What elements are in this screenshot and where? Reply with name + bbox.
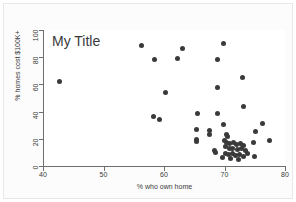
y-tick-mark: [39, 84, 43, 85]
x-axis-title: % who own home: [43, 183, 286, 190]
y-tick-label: 80: [32, 57, 39, 83]
x-tick-label: 60: [151, 171, 177, 178]
y-tick-label: 60: [32, 84, 39, 110]
chart-canvas: 020406080100 4050607080 My Title % homes…: [0, 0, 296, 202]
plot-area: [43, 30, 285, 166]
y-tick-label: 20: [32, 138, 39, 164]
y-tick-mark: [39, 139, 43, 140]
y-tick-mark: [39, 57, 43, 58]
chart-title: My Title: [52, 33, 100, 49]
scatter-point: [180, 46, 185, 51]
scatter-point: [139, 43, 144, 48]
scatter-point: [251, 140, 256, 145]
scatter-point: [163, 90, 168, 95]
y-tick-label: 100: [32, 30, 39, 56]
scatter-point: [195, 111, 200, 116]
scatter-point: [215, 111, 220, 116]
x-tick-label: 70: [212, 171, 238, 178]
y-tick-mark: [39, 112, 43, 113]
y-tick-label: 40: [32, 111, 39, 137]
scatter-point: [221, 122, 226, 127]
x-tick-label: 50: [91, 171, 117, 178]
y-axis-title: % homes cost $100K+: [14, 1, 21, 131]
scatter-point: [220, 155, 225, 160]
y-tick-mark: [39, 30, 43, 31]
y-axis-line: [43, 30, 44, 167]
x-tick-label: 80: [272, 171, 296, 178]
y-tick-label: 0: [32, 166, 39, 192]
scatter-point: [252, 154, 257, 159]
scatter-point: [236, 157, 241, 162]
scatter-point: [245, 151, 250, 156]
x-tick-label: 40: [30, 171, 56, 178]
